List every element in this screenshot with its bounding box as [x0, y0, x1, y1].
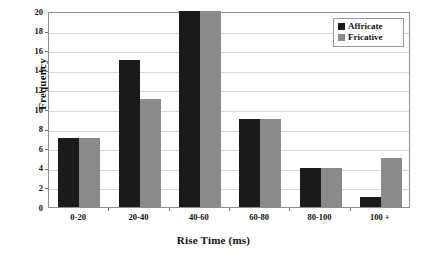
x-tick-label: 40-60 — [169, 213, 229, 222]
legend-label-affricate: Affricate — [348, 22, 382, 31]
legend-item-fricative: Fricative — [338, 33, 399, 42]
bar-fricative-2040 — [140, 99, 161, 207]
y-tick-label: 14 — [23, 66, 43, 75]
gridline — [49, 150, 409, 151]
gridline — [49, 189, 409, 190]
x-tick-mark — [229, 208, 230, 211]
legend-item-affricate: Affricate — [338, 22, 399, 31]
gridline — [49, 131, 409, 132]
x-tick-mark — [289, 208, 290, 211]
gridline — [49, 52, 409, 53]
gridline — [49, 72, 409, 73]
bar-affricate-80100 — [300, 168, 321, 207]
bar-fricative-4060 — [200, 11, 221, 207]
gridline — [49, 170, 409, 171]
y-tick-label: 16 — [23, 47, 43, 56]
bar-affricate-100 — [360, 197, 381, 207]
y-tick-label: 12 — [23, 86, 43, 95]
gridline — [49, 91, 409, 92]
legend-label-fricative: Fricative — [348, 33, 382, 42]
y-tick-label: 10 — [23, 106, 43, 115]
bar-affricate-2040 — [119, 60, 140, 207]
legend-swatch-fricative — [338, 34, 345, 41]
bar-affricate-020 — [58, 138, 79, 207]
y-tick-label: 8 — [23, 125, 43, 134]
y-tick-label: 20 — [23, 8, 43, 17]
y-tick-label: 6 — [23, 145, 43, 154]
bar-fricative-020 — [79, 138, 100, 207]
legend-swatch-affricate — [338, 23, 345, 30]
bar-fricative-80100 — [321, 168, 342, 207]
x-tick-mark — [350, 208, 351, 211]
x-tick-label: 60-80 — [229, 213, 289, 222]
x-tick-mark — [108, 208, 109, 211]
chart-figure: Frequency 20181614121086420 0-2020-4040-… — [0, 0, 427, 258]
x-tick-label: 100 + — [350, 213, 410, 222]
bar-affricate-4060 — [179, 11, 200, 207]
x-tick-mark — [169, 208, 170, 211]
y-tick-label: 18 — [23, 27, 43, 36]
bar-affricate-6080 — [239, 119, 260, 207]
x-tick-label: 0-20 — [48, 213, 108, 222]
legend: AffricateFricative — [333, 18, 404, 47]
y-tick-label: 0 — [23, 204, 43, 213]
y-tick-label: 4 — [23, 164, 43, 173]
x-tick-label: 80-100 — [290, 213, 350, 222]
x-axis-title: Rise Time (ms) — [0, 234, 427, 246]
bar-fricative-100 — [381, 158, 402, 207]
gridline — [49, 111, 409, 112]
x-tick-label: 20-40 — [109, 213, 169, 222]
bar-fricative-6080 — [260, 119, 281, 207]
y-tick-label: 2 — [23, 184, 43, 193]
